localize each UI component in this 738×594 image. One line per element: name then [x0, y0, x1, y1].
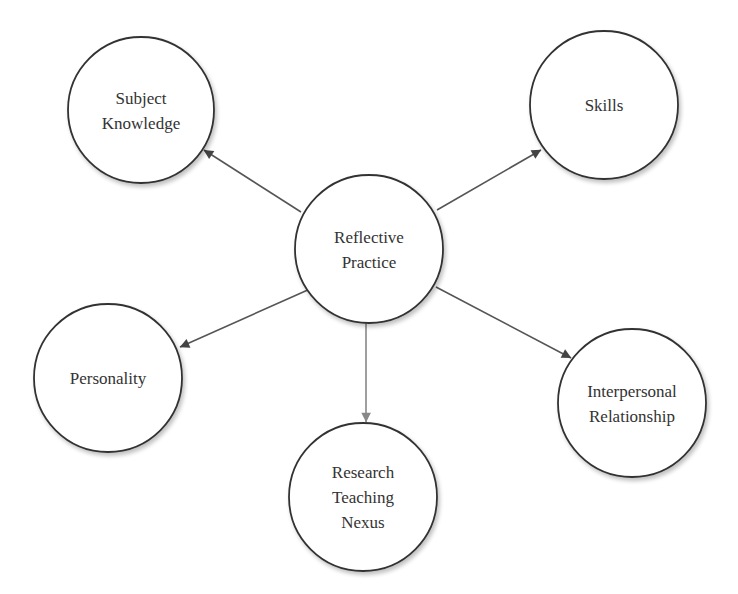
node-reflective-practice: ReflectivePractice — [295, 175, 443, 323]
node-subject-knowledge-label-line: Subject — [116, 89, 167, 108]
node-skills-label-line: Skills — [585, 96, 624, 115]
node-interpersonal-relationship-label-line: Relationship — [589, 407, 675, 426]
node-reflective-practice-circle — [295, 175, 443, 323]
arrow-skills — [437, 150, 541, 210]
node-reflective-practice-label-line: Practice — [342, 253, 397, 272]
node-skills: Skills — [530, 31, 678, 179]
node-subject-knowledge-label-line: Knowledge — [102, 114, 180, 133]
node-subject-knowledge: SubjectKnowledge — [68, 37, 214, 183]
node-personality-label-line: Personality — [70, 369, 147, 388]
arrow-personality — [180, 289, 310, 347]
node-subject-knowledge-circle — [68, 37, 214, 183]
node-research-teaching-nexus-label-line: Research — [332, 463, 395, 482]
arrow-subject-knowledge — [204, 150, 301, 212]
node-reflective-practice-label-line: Reflective — [334, 228, 404, 247]
node-personality: Personality — [34, 304, 182, 452]
node-interpersonal-relationship: InterpersonalRelationship — [558, 329, 706, 477]
node-research-teaching-nexus-label-line: Teaching — [332, 488, 395, 507]
nodes-group: ReflectivePracticeSubjectKnowledgeSkills… — [34, 31, 706, 571]
node-research-teaching-nexus-label-line: Nexus — [341, 513, 384, 532]
concept-diagram: ReflectivePracticeSubjectKnowledgeSkills… — [0, 0, 738, 594]
arrow-interpersonal-relationship — [436, 287, 571, 358]
node-interpersonal-relationship-label-line: Interpersonal — [587, 382, 677, 401]
node-interpersonal-relationship-circle — [558, 329, 706, 477]
node-research-teaching-nexus: ResearchTeachingNexus — [289, 423, 437, 571]
